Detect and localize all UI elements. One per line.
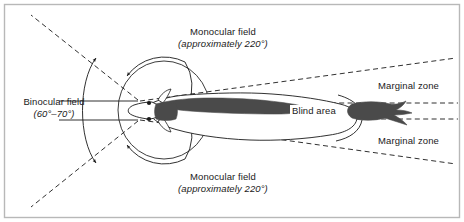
label-monocular-field-bottom: Monocular field (approximately 220°) — [160, 171, 286, 194]
label-marginal-zone-bottom: Marginal zone — [378, 135, 439, 147]
label-monocular-field-top-line2: (approximately 220°) — [178, 38, 268, 49]
label-blind-area: Blind area — [290, 105, 338, 117]
label-monocular-field-bottom-line2: (approximately 220°) — [178, 183, 268, 194]
label-binocular-field-line1: Binocular field — [23, 96, 84, 107]
label-marginal-zone-top: Marginal zone — [378, 80, 439, 92]
horse-head-dark-marking — [155, 103, 178, 121]
label-monocular-field-top: Monocular field (approximately 220°) — [160, 26, 286, 49]
label-binocular-field-line2: (60°–70°) — [33, 108, 74, 119]
visual-field-figure: Monocular field (approximately 220°) Mon… — [0, 0, 464, 222]
label-monocular-field-bottom-line1: Monocular field — [190, 171, 256, 182]
label-monocular-field-top-line1: Monocular field — [190, 26, 256, 37]
horse-eye-right — [147, 117, 151, 121]
label-binocular-field: Binocular field (60°–70°) — [14, 96, 94, 119]
horse-eye-left — [147, 101, 151, 105]
